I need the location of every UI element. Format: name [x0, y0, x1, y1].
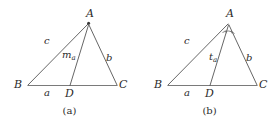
vertex-label-C: C	[119, 79, 127, 90]
segment-c-a	[28, 24, 88, 85]
vertex-a-dot	[87, 22, 90, 25]
bisector-label: ta	[209, 52, 217, 62]
figure-a-caption: (a)	[0, 105, 139, 116]
median-label-sub: a	[71, 54, 75, 62]
side-label-a: a	[184, 88, 190, 98]
segment-b-a	[89, 25, 117, 85]
figure-b-angle-bisector: A B C D c b a ta (b)	[140, 0, 279, 127]
vertex-label-D: D	[205, 88, 214, 99]
segment-b-b	[229, 25, 257, 85]
vertex-label-A: A	[226, 8, 234, 19]
bisector-label-sub: a	[213, 56, 217, 64]
figure-a-median: A B C D c b a ma (a)	[0, 0, 139, 127]
side-label-c: c	[184, 36, 190, 46]
side-label-b: b	[106, 53, 112, 63]
side-label-b: b	[246, 53, 252, 63]
vertex-label-C: C	[259, 79, 267, 90]
median-label: ma	[62, 50, 76, 60]
segment-c-b	[168, 24, 228, 85]
vertex-label-B: B	[154, 79, 162, 90]
figure-b-caption: (b)	[140, 105, 279, 116]
figure-page: A B C D c b a ma (a) A	[0, 0, 279, 127]
side-label-c: c	[44, 36, 50, 46]
vertex-label-D: D	[65, 88, 74, 99]
vertex-label-A: A	[86, 8, 94, 19]
side-label-a: a	[44, 88, 50, 98]
vertex-label-B: B	[14, 79, 22, 90]
